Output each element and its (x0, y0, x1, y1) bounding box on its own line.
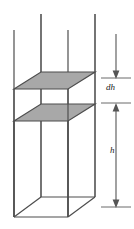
box-base (14, 197, 95, 217)
box-diagram-svg (0, 0, 134, 229)
lower-shaded-plane (14, 104, 95, 121)
base-left-depth-edge (14, 197, 41, 217)
upper-plane-fill (14, 72, 95, 89)
dh-dimension-arrows (113, 34, 120, 112)
h-dimension-arrows (113, 105, 120, 208)
dimension-label-h: h (110, 146, 115, 155)
figure-container: dh h (0, 0, 134, 229)
upper-shaded-plane (14, 72, 95, 89)
lower-plane-fill (14, 104, 95, 121)
dimension-label-dh: dh (106, 83, 115, 92)
base-right-depth-edge (68, 197, 95, 217)
